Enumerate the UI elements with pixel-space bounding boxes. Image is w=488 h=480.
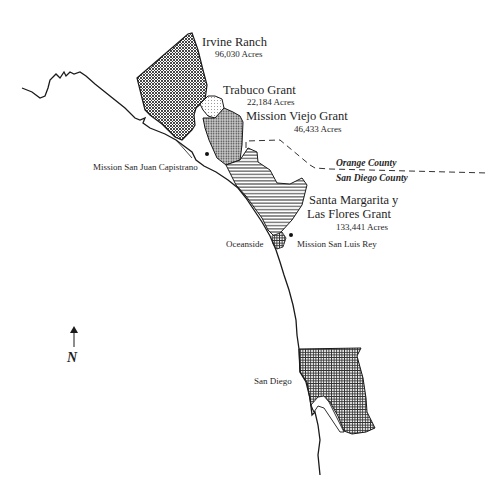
santa-margarita-grant-acres: 133,441 Acres [336, 222, 388, 232]
santa-margarita-grant-label-line1: Santa Margarita y [309, 193, 398, 208]
irvine-ranch-label: Irvine Ranch [202, 35, 267, 50]
trabuco-grant-label: Trabuco Grant [223, 83, 296, 98]
santa-margarita-grant-area [226, 148, 307, 238]
mission-slr-label: Mission San Luis Rey [297, 239, 377, 249]
irvine-ranch-area [137, 33, 207, 140]
north-arrow-icon [70, 326, 78, 347]
mission-sjc-label: Mission San Juan Capistrano [93, 162, 198, 172]
san-diego-county-label: San Diego County [336, 173, 408, 183]
trabuco-grant-acres: 22,184 Acres [247, 97, 295, 107]
north-label: N [67, 350, 77, 366]
mission-sjc-dot [205, 152, 209, 156]
mission-slr-dot [289, 233, 293, 237]
oceanside-label: Oceanside [226, 239, 263, 249]
santa-margarita-grant-label-line2: Las Flores Grant [307, 207, 391, 222]
orange-county-label: Orange County [336, 158, 396, 168]
irvine-ranch-acres: 96,030 Acres [215, 49, 263, 59]
mission-viejo-grant-label: Mission Viejo Grant [246, 109, 348, 124]
coast-inner [176, 140, 192, 158]
mission-viejo-grant-acres: 46,433 Acres [294, 124, 342, 134]
san-diego-label: San Diego [254, 376, 292, 386]
county-boundary [246, 140, 488, 173]
